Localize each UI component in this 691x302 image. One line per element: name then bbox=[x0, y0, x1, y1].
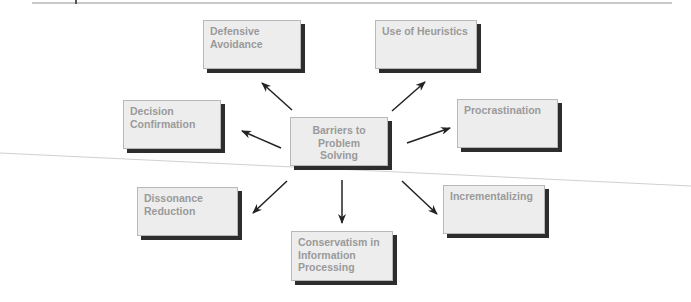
center-label: Solving bbox=[297, 149, 381, 162]
node-barriers-center: Barriers to Problem Solving bbox=[290, 117, 388, 166]
node-label: Procrastination bbox=[464, 104, 551, 117]
node-label: Incrementalizing bbox=[450, 190, 538, 203]
node-label: Defensive bbox=[210, 25, 294, 38]
node-procrastination: Procrastination bbox=[457, 99, 558, 148]
node-defensive-avoidance: Defensive Avoidance bbox=[203, 20, 301, 69]
node-label: Dissonance bbox=[144, 192, 231, 205]
arrow-to-use-of-heuristics bbox=[392, 82, 425, 111]
arrow-to-procrastination bbox=[407, 128, 450, 143]
arrow-to-decision-confirmation bbox=[242, 131, 281, 148]
node-label: Confirmation bbox=[130, 118, 214, 131]
node-dissonance-reduction: Dissonance Reduction bbox=[137, 187, 238, 236]
node-label: Avoidance bbox=[210, 38, 294, 51]
node-decision-confirmation: Decision Confirmation bbox=[123, 100, 221, 149]
node-label: Processing bbox=[298, 261, 386, 274]
center-label: Barriers to bbox=[297, 124, 381, 137]
center-label: Problem bbox=[297, 137, 381, 150]
arrow-to-dissonance-reduction bbox=[253, 181, 287, 213]
node-label: Use of Heuristics bbox=[382, 25, 470, 38]
node-label: Conservatism in bbox=[298, 236, 386, 249]
node-incrementalizing: Incrementalizing bbox=[443, 185, 545, 234]
arrow-to-incrementalizing bbox=[402, 181, 437, 214]
node-use-of-heuristics: Use of Heuristics bbox=[375, 20, 477, 69]
arrow-to-defensive-avoidance bbox=[262, 83, 292, 110]
node-conservatism: Conservatism in Information Processing bbox=[291, 231, 393, 281]
node-label: Information bbox=[298, 249, 386, 262]
node-label: Decision bbox=[130, 105, 214, 118]
node-label: Reduction bbox=[144, 205, 231, 218]
